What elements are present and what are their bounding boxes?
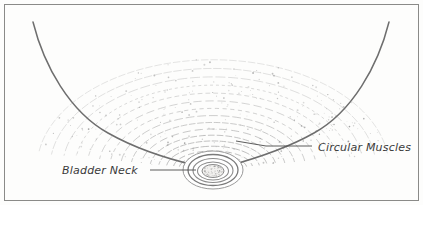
lumen-stipple-dot [216, 176, 217, 177]
stipple-dot [297, 116, 298, 117]
stipple-dot [310, 140, 311, 141]
stipple-dot [88, 128, 90, 130]
stipple-dot [327, 94, 328, 95]
stipple-dot [281, 156, 282, 157]
stipple-dot [347, 121, 348, 122]
stipple-dot [227, 104, 228, 105]
stipple-dot [139, 136, 140, 137]
stipple-dot [280, 150, 282, 152]
stipple-dot [221, 102, 222, 103]
stipple-dot [73, 117, 75, 119]
lumen-stipple-dot [204, 170, 205, 171]
stipple-dot [278, 67, 279, 68]
stipple-dot [164, 91, 166, 93]
lumen-stipple-dot [215, 166, 216, 167]
stipple-dot [302, 106, 303, 107]
stipple-dot [256, 70, 257, 71]
stipple-dot [70, 125, 71, 126]
circular-muscles-label: Circular Muscles [318, 141, 411, 154]
stipple-dot [267, 119, 268, 120]
stipple-dot [228, 82, 229, 83]
stipple-dot [168, 76, 170, 78]
stipple-dot [283, 86, 285, 88]
stipple-dot [330, 128, 331, 129]
stipple-dot [138, 72, 139, 73]
lumen-stipple-dot [211, 171, 212, 172]
stipple-dot [333, 99, 334, 100]
bladder-neck-label: Bladder Neck [62, 164, 138, 177]
stipple-dot [301, 125, 302, 126]
stipple-dot [163, 114, 164, 115]
stipple-dot [45, 144, 47, 146]
stipple-dot [370, 133, 371, 134]
lumen-stipple-dot [205, 172, 206, 173]
stipple-dot [289, 147, 290, 148]
stipple-dot [332, 129, 334, 131]
stipple-dot [277, 82, 279, 84]
stipple-dot [183, 150, 185, 152]
stipple-dot [317, 95, 318, 96]
lumen-stipple-dot [206, 174, 207, 175]
lumen-stipple-dot [210, 174, 211, 175]
stipple-dot [167, 64, 168, 65]
stipple-dot [105, 115, 107, 117]
stipple-dot [188, 99, 189, 100]
lumen-stipple-dot [213, 175, 214, 176]
lumen-stipple-dot [205, 174, 206, 175]
stipple-dot [250, 90, 251, 91]
stipple-dot [203, 64, 205, 66]
stipple-dot [339, 108, 340, 109]
stipple-dot [263, 162, 265, 164]
lumen-stipple-dot [221, 171, 223, 173]
lumen-stipple-dot [210, 165, 211, 166]
lumen-stipple-dot [217, 166, 218, 167]
stipple-dot [260, 138, 261, 139]
lumen-stipple-dot [212, 175, 213, 176]
stipple-dot [96, 138, 97, 139]
stipple-dot [235, 75, 236, 76]
stipple-dot [326, 108, 327, 109]
lumen-stipple-dot [214, 168, 215, 169]
stipple-dot [158, 150, 160, 152]
lumen-stipple-dot [208, 175, 209, 176]
stipple-dot [248, 86, 250, 88]
stipple-dot [59, 117, 61, 119]
stipple-dot [332, 124, 333, 125]
stipple-dot [278, 91, 279, 92]
stipple-dot [278, 157, 279, 158]
stipple-dot [319, 133, 320, 134]
stipple-dot [119, 114, 121, 116]
stipple-dot [254, 128, 255, 129]
lumen-stipple-dot [220, 167, 221, 168]
stipple-dot [202, 138, 203, 139]
stipple-dot [306, 132, 307, 133]
lumen-stipple-dot [214, 172, 215, 173]
stipple-dot [155, 85, 156, 86]
stipple-dot [160, 136, 161, 137]
stipple-dot [377, 132, 378, 133]
stipple-dot [175, 107, 176, 108]
stipple-dot [273, 122, 274, 123]
stipple-dot [238, 93, 239, 94]
stipple-dot [340, 103, 341, 104]
stipple-dot [165, 133, 166, 134]
stipple-dot [260, 72, 261, 73]
stipple-dot [131, 95, 132, 96]
stipple-dot [226, 128, 227, 129]
stipple-dot [227, 150, 228, 151]
stipple-dot [262, 139, 263, 140]
stipple-dot [259, 141, 261, 143]
stipple-dot [352, 122, 353, 123]
stipple-dot [214, 142, 215, 143]
stipple-dot [216, 96, 217, 97]
stipple-dot [312, 85, 313, 86]
stipple-dot [239, 105, 240, 106]
stipple-dot [184, 142, 186, 144]
stipple-dot [90, 148, 92, 150]
stipple-dot [196, 59, 197, 60]
stipple-dot [241, 91, 242, 92]
stipple-dot [260, 98, 261, 99]
lumen-stipple-dot [212, 168, 213, 169]
stipple-dot [256, 98, 257, 99]
stipple-dot [72, 136, 73, 137]
